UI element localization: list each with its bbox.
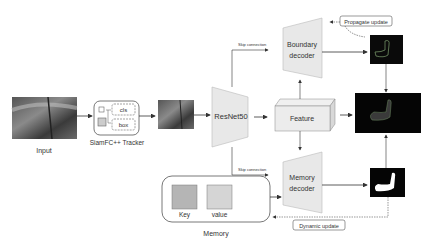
propagate-update-label: Propagate update	[344, 19, 388, 25]
memory-decoder	[283, 152, 322, 213]
cropped-image	[158, 100, 194, 129]
boundary-decoder-line1: Boundary	[287, 41, 317, 49]
feature-label: Feature	[290, 115, 314, 122]
input-image	[12, 97, 77, 139]
resnet-label: ResNet50	[214, 112, 247, 121]
boundary-decoder	[283, 18, 322, 78]
tracker-box-label: box	[119, 122, 129, 128]
boundary-output-image	[370, 35, 403, 64]
dynamic-update-label: Dynamic update	[299, 223, 339, 229]
memory-output-image	[370, 168, 405, 197]
tracker-box	[94, 101, 139, 135]
tracker-label: SiamFC++ Tracker	[90, 139, 145, 146]
combined-output-image	[355, 93, 421, 133]
memory-value-label: value	[212, 211, 228, 218]
tracker-cls: cls	[120, 107, 127, 113]
memory-value-square	[207, 185, 232, 209]
skip-bottom-label: Skip connection	[238, 167, 266, 172]
memory-key-square	[172, 185, 197, 209]
skip-top-label: Skip connection	[238, 42, 266, 47]
boundary-decoder-line2: decoder	[289, 52, 315, 59]
input-label: Input	[36, 147, 52, 155]
memory-decoder-line2: decoder	[289, 185, 315, 192]
memory-label: Memory	[203, 230, 229, 238]
memory-decoder-line1: Memory	[289, 174, 315, 182]
memory-key-label: Key	[179, 211, 191, 219]
